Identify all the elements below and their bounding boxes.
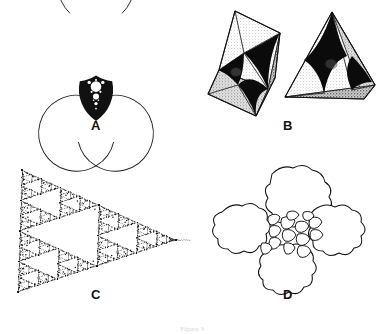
tetrahedron-face-highlight [325,59,337,69]
panel-c-label: C [0,288,192,301]
cell-1 [268,214,280,225]
gasket-circle-10 [93,100,95,102]
interstitial-cells [261,211,323,257]
gasket-circle-6 [91,91,93,93]
gasket-circle-4 [101,81,104,84]
panel-b-label: B [192,119,384,132]
octahedron [208,11,280,116]
fractal-dot-cloud [17,169,190,293]
cell-5 [282,230,296,242]
gasket-circle-5 [94,102,97,105]
panel-c: C [0,150,192,315]
gasket-circle-2 [93,94,99,100]
panel-b: B [192,0,384,148]
circle-top [58,0,134,13]
gasket-circle-9 [95,108,97,110]
gasket-cluster [79,76,113,122]
cell-2 [269,226,281,238]
octahedron-face-highlight [231,68,242,77]
tetrahedron [285,12,375,99]
panel-a-label: A [0,119,192,132]
panel-d-label: D [192,288,384,301]
gasket-circle-8 [95,79,97,81]
panel-a: A [0,0,192,148]
figure-caption: Figure 3 [0,325,384,333]
figure-root: A [0,0,384,334]
gasket-circle-3 [88,81,91,84]
gasket-circle-7 [99,91,101,93]
gasket-circle-11 [98,100,100,102]
gasket-circle-1 [91,81,102,92]
panel-d: D [192,150,384,315]
cell-6 [295,221,309,232]
cell-7 [296,234,310,246]
